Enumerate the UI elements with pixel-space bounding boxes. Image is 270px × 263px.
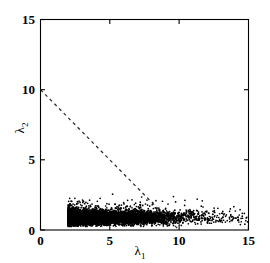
x-tick-label-5: 5 [107, 233, 114, 248]
plot-canvas: 15 10 5 0 0 5 10 15 λ1 λ2 [0, 0, 270, 263]
svg-text:λ1: λ1 [135, 243, 146, 261]
y-axis-title: λ2 [12, 123, 30, 134]
x-axis-ticks-top [110, 20, 179, 25]
y-axis-title-subscript: 2 [20, 123, 30, 128]
y-tick-label-5: 5 [29, 152, 36, 167]
y-axis-ticks-right [244, 90, 249, 160]
x-tick-label-10: 10 [173, 233, 186, 248]
svg-text:λ2: λ2 [12, 123, 30, 134]
threshold-line [41, 90, 180, 230]
y-tick-label-15: 15 [22, 12, 36, 27]
x-axis-title: λ1 [135, 243, 146, 261]
y-tick-label-0: 0 [29, 223, 36, 238]
x-tick-label-0: 0 [37, 233, 44, 248]
y-tick-label-10: 10 [22, 82, 35, 97]
x-axis-title-subscript: 1 [141, 251, 146, 261]
plot-frame [41, 20, 249, 231]
scatter-plot-figure: 15 10 5 0 0 5 10 15 λ1 λ2 [0, 0, 270, 263]
x-tick-label-15: 15 [242, 233, 256, 248]
scatter-points-layer [67, 193, 248, 227]
y-axis-ticks [41, 20, 46, 231]
